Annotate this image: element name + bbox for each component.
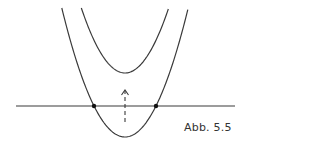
upper-parabola [81,8,168,73]
figure-caption: Abb. 5.5 [184,121,232,134]
intersection-point-left [92,104,96,108]
intersection-point-right [154,104,158,108]
